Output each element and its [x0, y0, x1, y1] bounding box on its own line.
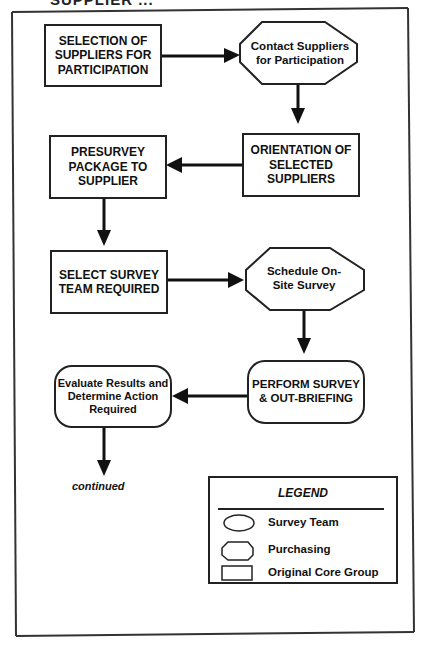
node-label: PRESURVEY PACKAGE TO SUPPLIER [51, 145, 165, 188]
node-presurvey-package: PRESURVEY PACKAGE TO SUPPLIER [49, 135, 167, 199]
legend-label-survey-team: Survey Team [268, 516, 339, 528]
node-select-survey-team: SELECT SURVEY TEAM REQUIRED [50, 250, 168, 314]
node-perform-survey: PERFORM SURVEY & OUT-BRIEFING [247, 360, 365, 424]
node-label: Contact Suppliers for Participation [248, 40, 352, 68]
node-label: PERFORM SURVEY & OUT-BRIEFING [249, 378, 363, 406]
rectangle-icon [222, 566, 252, 580]
node-label: SELECTION OF SUPPLIERS FOR PARTICIPATION [46, 34, 160, 77]
legend: LEGEND Survey Team Purchasing Original C… [208, 476, 398, 584]
node-label: SELECT SURVEY TEAM REQUIRED [52, 268, 166, 297]
legend-label-purchasing: Purchasing [268, 543, 331, 555]
node-label: ORIENTATION OF SELECTED SUPPLIERS [244, 143, 358, 186]
legend-label-original-core-group: Original Core Group [268, 566, 379, 578]
node-evaluate-results: Evaluate Results and Determine Action Re… [54, 365, 172, 428]
node-label: Evaluate Results and Determine Action Re… [56, 377, 170, 417]
node-label: Schedule On-Site Survey [262, 265, 346, 293]
ellipse-icon [224, 515, 254, 531]
continued-label: continued [72, 480, 125, 492]
node-orientation: ORIENTATION OF SELECTED SUPPLIERS [242, 133, 360, 197]
octagon-icon [222, 542, 253, 560]
node-schedule-on-site-survey: Schedule On-Site Survey [262, 250, 346, 308]
node-selection-of-suppliers: SELECTION OF SUPPLIERS FOR PARTICIPATION [44, 24, 162, 87]
node-contact-suppliers: Contact Suppliers for Participation [248, 24, 352, 84]
